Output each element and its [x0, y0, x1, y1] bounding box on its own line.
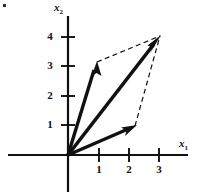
x-axis-label: x1 [179, 138, 188, 152]
vector-addition-figure: x2 x1 1 2 3 1 2 3 4 [0, 0, 200, 192]
y-axis-label: x2 [54, 2, 63, 16]
x-tick-label-2: 2 [123, 164, 135, 175]
vector-sum-arrow [68, 35, 161, 155]
vector-arrows [68, 35, 161, 155]
x-tick-label-3: 3 [153, 164, 165, 175]
y-tick-label-2: 2 [44, 90, 56, 101]
y-tick-label-4: 4 [44, 31, 56, 42]
y-tick-label-3: 3 [44, 60, 56, 71]
y-tick-label-1: 1 [44, 119, 56, 130]
x-tick-label-1: 1 [93, 164, 105, 175]
